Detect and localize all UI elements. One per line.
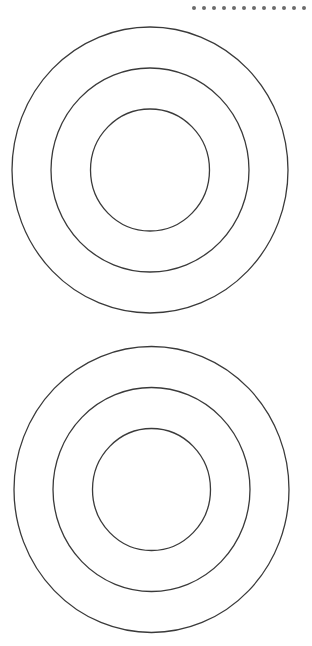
concentric-circles-diagram [0, 0, 312, 646]
dot [272, 6, 276, 10]
dot [232, 6, 236, 10]
top-target [12, 27, 288, 313]
dot [242, 6, 246, 10]
dot [202, 6, 206, 10]
dot [192, 6, 196, 10]
dot [212, 6, 216, 10]
middle-ring [51, 68, 249, 272]
dot [262, 6, 266, 10]
dotted-line-decoration [192, 6, 306, 11]
dot [222, 6, 226, 10]
dot [252, 6, 256, 10]
middle-ring [53, 388, 250, 592]
outer-ring [12, 27, 288, 313]
worksheet-canvas [0, 0, 312, 646]
outer-ring [14, 347, 289, 633]
dot [292, 6, 296, 10]
dot [302, 6, 306, 10]
inner-ring [91, 109, 210, 231]
inner-ring [93, 429, 211, 551]
bottom-target [14, 347, 289, 633]
dot [282, 6, 286, 10]
